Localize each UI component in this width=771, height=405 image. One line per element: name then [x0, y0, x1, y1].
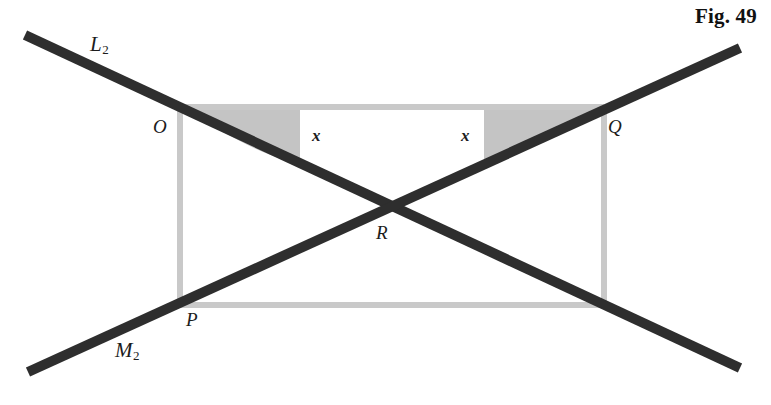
point-label-R: R — [376, 222, 388, 244]
point-label-P: P — [186, 309, 198, 331]
angle-label-left: x — [312, 126, 321, 146]
point-label-O: O — [153, 116, 167, 138]
line-label-M2-sub: 2 — [133, 348, 140, 363]
geometry-figure: Fig. 49 L2 M2 O Q R P x x — [0, 0, 771, 405]
line-label-L2: L2 — [90, 32, 109, 58]
point-label-Q: Q — [608, 116, 622, 138]
line-label-L2-text: L — [90, 32, 102, 56]
line-L2 — [25, 35, 740, 368]
line-label-M2: M2 — [115, 338, 140, 364]
angle-label-right: x — [461, 126, 470, 146]
line-label-L2-sub: 2 — [102, 42, 109, 57]
figure-caption: Fig. 49 — [695, 4, 757, 29]
line-label-M2-text: M — [115, 338, 133, 362]
